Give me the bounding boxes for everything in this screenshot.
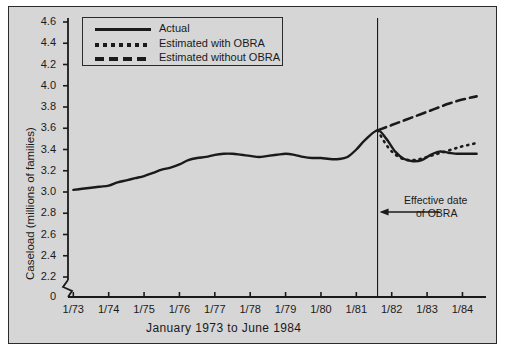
y-tick-label: 4.0 — [22, 79, 56, 91]
y-tick-label: 4.6 — [22, 15, 56, 27]
x-tick-label: 1/84 — [439, 303, 485, 315]
y-tick-label: 4.2 — [22, 58, 56, 70]
legend-swatch-dotted — [95, 43, 151, 47]
chart-legend: Actual Estimated with OBRA Estimated wit… — [82, 17, 283, 66]
y-tick-label: 3.8 — [22, 100, 56, 112]
annotation-line-1: Effective date — [404, 194, 467, 206]
y-tick-label: 0 — [22, 290, 56, 302]
y-tick-label: 2.8 — [22, 206, 56, 218]
y-tick-label: 4.4 — [22, 36, 56, 48]
legend-swatch-solid — [95, 28, 151, 31]
y-tick-label: 3.0 — [22, 185, 56, 197]
series-line-estimated-without-obra — [378, 96, 477, 130]
legend-label-actual: Actual — [159, 22, 190, 34]
y-tick-label: 3.2 — [22, 164, 56, 176]
legend-entry-with-obra: Estimated with OBRA — [83, 37, 284, 52]
y-tick-label: 2.2 — [22, 270, 56, 282]
legend-entry-actual: Actual — [83, 22, 284, 37]
figure-container: Actual Estimated with OBRA Estimated wit… — [0, 0, 507, 356]
legend-label-with-obra: Estimated with OBRA — [159, 37, 265, 49]
x-axis-title: January 1973 to June 1984 — [146, 321, 301, 335]
annotation-arrow-head — [380, 209, 389, 216]
series-line-actual — [73, 130, 476, 190]
legend-entry-without-obra: Estimated without OBRA — [83, 51, 284, 66]
y-tick-label: 3.6 — [22, 121, 56, 133]
legend-label-without-obra: Estimated without OBRA — [159, 51, 280, 63]
y-tick-label: 2.4 — [22, 249, 56, 261]
annotation-line-2: of OBRA — [416, 207, 457, 219]
y-tick-label: 3.4 — [22, 143, 56, 155]
y-axis-break-mark — [63, 280, 72, 297]
y-tick-label: 2.6 — [22, 228, 56, 240]
legend-swatch-dashed — [95, 57, 151, 61]
